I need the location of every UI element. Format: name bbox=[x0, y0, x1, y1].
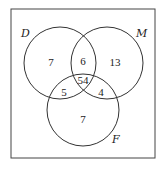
region-f-only: 7 bbox=[80, 113, 86, 125]
set-label-m: M bbox=[135, 27, 148, 40]
venn-diagram: D M F 7 13 7 6 5 4 54 bbox=[0, 0, 164, 169]
region-d-f: 5 bbox=[61, 86, 67, 98]
region-d-m: 6 bbox=[80, 55, 86, 67]
region-d-only: 7 bbox=[48, 56, 54, 68]
set-label-f: F bbox=[111, 133, 120, 146]
region-m-f: 4 bbox=[98, 86, 104, 98]
set-label-d: D bbox=[20, 27, 30, 40]
region-m-only: 13 bbox=[110, 56, 122, 68]
region-d-m-f: 54 bbox=[78, 74, 90, 86]
